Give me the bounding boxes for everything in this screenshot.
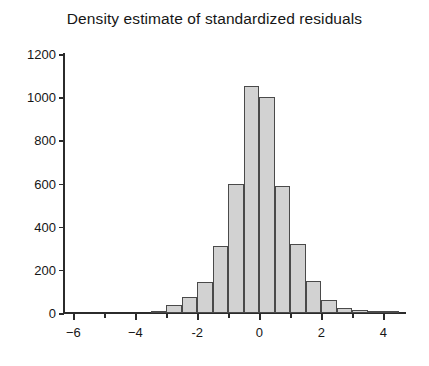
y-tick-label: 200 bbox=[34, 262, 56, 277]
y-tick-label: 800 bbox=[34, 133, 56, 148]
histogram-bar bbox=[306, 281, 322, 313]
chart-figure: Density estimate of standardized residua… bbox=[0, 0, 429, 366]
x-tick-mark bbox=[166, 313, 168, 318]
histogram-bars bbox=[64, 54, 405, 313]
plot-area: 020040060080010001200 −6−4-2024 bbox=[64, 54, 405, 313]
histogram-bar bbox=[213, 246, 229, 313]
x-tick-mark bbox=[104, 313, 106, 318]
histogram-bar bbox=[197, 282, 213, 313]
y-tick-mark bbox=[59, 140, 64, 142]
histogram-bar bbox=[151, 311, 167, 313]
histogram-bar bbox=[259, 97, 275, 313]
x-tick-label: −6 bbox=[66, 325, 81, 340]
histogram-bar bbox=[368, 311, 384, 313]
histogram-bar bbox=[383, 311, 399, 313]
y-tick-label: 1200 bbox=[27, 47, 56, 62]
histogram-bar bbox=[228, 184, 244, 314]
x-tick-mark bbox=[73, 313, 75, 320]
x-tick-mark bbox=[321, 313, 323, 320]
y-tick-mark bbox=[59, 97, 64, 99]
y-tick-mark bbox=[59, 227, 64, 229]
chart-title: Density estimate of standardized residua… bbox=[0, 10, 429, 28]
y-tick-mark bbox=[59, 270, 64, 272]
histogram-bar bbox=[337, 308, 353, 313]
x-tick-mark bbox=[259, 313, 261, 320]
y-tick-mark bbox=[59, 54, 64, 56]
y-tick-label: 400 bbox=[34, 219, 56, 234]
y-tick-label: 0 bbox=[49, 306, 56, 321]
y-tick-label: 1000 bbox=[27, 90, 56, 105]
x-tick-label: −4 bbox=[128, 325, 143, 340]
y-tick-mark bbox=[59, 313, 64, 315]
x-tick-mark bbox=[197, 313, 199, 320]
y-tick-mark bbox=[59, 184, 64, 186]
x-tick-label: 4 bbox=[380, 325, 387, 340]
histogram-bar bbox=[166, 305, 182, 313]
x-tick-label: 2 bbox=[318, 325, 325, 340]
histogram-bar bbox=[182, 297, 198, 313]
histogram-bar bbox=[275, 186, 291, 313]
histogram-bar bbox=[352, 310, 368, 313]
x-tick-mark bbox=[290, 313, 292, 318]
histogram-bar bbox=[244, 86, 260, 313]
histogram-bar bbox=[290, 244, 306, 313]
x-tick-label: 0 bbox=[256, 325, 263, 340]
x-tick-mark bbox=[135, 313, 137, 320]
x-tick-mark bbox=[228, 313, 230, 318]
y-tick-label: 600 bbox=[34, 176, 56, 191]
x-tick-label: -2 bbox=[192, 325, 204, 340]
x-tick-mark bbox=[383, 313, 385, 320]
x-tick-mark bbox=[352, 313, 354, 318]
histogram-bar bbox=[321, 300, 337, 313]
